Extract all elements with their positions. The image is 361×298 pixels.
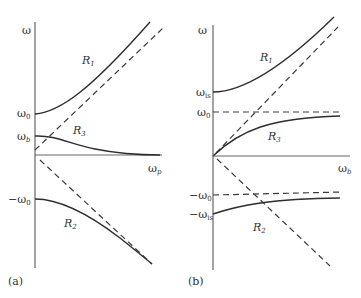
curve-r2-a [35, 199, 152, 264]
tick-w0-a: ω0 [17, 108, 30, 121]
branch-r3-b: R3 [268, 131, 281, 144]
curve-r1-a [35, 22, 150, 114]
branch-r2-b: R2 [253, 222, 266, 235]
caption-b: (b) [188, 276, 204, 287]
panel-a [35, 22, 163, 268]
branch-r1-a: R1 [82, 55, 95, 68]
caption-a: (a) [8, 276, 23, 287]
dispersion-diagram [0, 0, 361, 298]
branch-r2-a: R2 [64, 218, 77, 231]
x-axis-label-a: ωp [148, 163, 161, 176]
tick-neg-wis-b: −ωis [189, 209, 213, 222]
panel-b [213, 17, 350, 270]
curve-r1-b [213, 17, 334, 92]
x-axis-label-b: ωb [338, 163, 351, 176]
branch-r1-b: R1 [260, 52, 273, 65]
curve-r2-b [213, 198, 340, 214]
tick-wb-a: ωb [17, 131, 30, 144]
y-axis-label-b: ω [198, 25, 207, 36]
tick-w0-b: ω0 [197, 107, 210, 120]
tick-neg-w0-b: −ω0 [189, 190, 212, 203]
light-line-neg-a [40, 160, 152, 264]
curve-r3-a [35, 136, 160, 155]
tick-neg-w0-a: −ω0 [8, 194, 31, 207]
light-line-a [35, 28, 163, 150]
branch-r3-a: R3 [73, 125, 86, 138]
light-line-neg-b [217, 159, 330, 266]
tick-wis-b: ωis [196, 87, 211, 100]
y-axis-label-a: ω [22, 25, 31, 36]
neg-w0-line-b [213, 192, 342, 195]
